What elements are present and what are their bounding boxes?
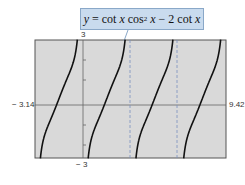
- callout-pointer: [124, 30, 128, 41]
- plot-area: [35, 40, 226, 158]
- xmin-label: − 3.14: [12, 100, 34, 109]
- xmax-label: 9.42: [229, 100, 245, 109]
- ymax-label: 3: [81, 30, 85, 39]
- ymin-label: − 3: [76, 160, 87, 169]
- eq-x: x: [195, 12, 200, 27]
- equation-callout: y = cot x cos2 x − 2 cot x: [80, 8, 204, 30]
- eq-part: − 2 cot: [156, 12, 195, 27]
- eq-part: = cot: [89, 12, 119, 27]
- eq-x: x: [147, 12, 155, 27]
- eq-part: cos: [125, 12, 144, 27]
